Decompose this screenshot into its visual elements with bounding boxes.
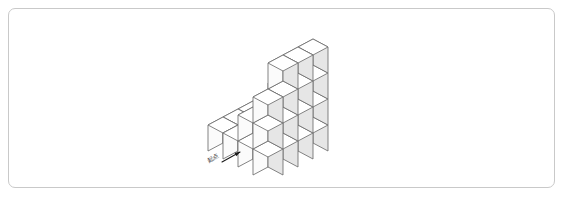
isometric-cube-svg [0, 0, 565, 200]
screenshot-root: 起点 [0, 0, 565, 200]
cube-group [208, 39, 328, 175]
isometric-structure-figure [0, 0, 565, 200]
